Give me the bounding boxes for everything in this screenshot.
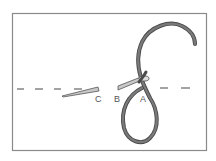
fabric-frame [13,14,207,151]
stitch-diagram: C B A [0,0,216,161]
label-b: B [114,94,120,104]
label-c: C [95,94,102,104]
label-a: A [140,94,146,104]
